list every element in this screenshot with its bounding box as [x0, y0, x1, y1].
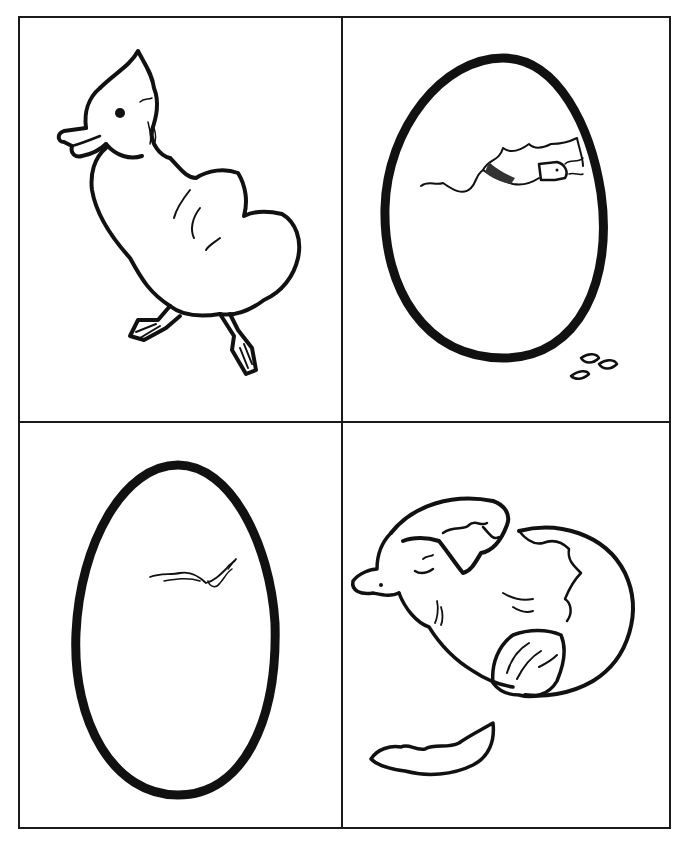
duckling-illustration: [20, 18, 341, 421]
duckling-eye: [115, 108, 125, 118]
egg-shell-outline: [76, 465, 275, 795]
picture-grid: [18, 16, 671, 829]
egg-shell-outline: [385, 58, 604, 358]
beak-tip: [539, 162, 567, 180]
panel-hatching: [343, 423, 669, 827]
crack-shadow: [485, 162, 515, 184]
duckling-eye: [379, 583, 383, 587]
panel-egg-crack: [20, 423, 341, 827]
panel-duckling: [20, 18, 341, 421]
hatching-duckling-illustration: [343, 423, 669, 827]
egg-beak-illustration: [343, 18, 669, 421]
worksheet-page: [0, 0, 684, 842]
panel-egg-beak: [343, 18, 669, 421]
egg-crack-illustration: [20, 423, 341, 827]
